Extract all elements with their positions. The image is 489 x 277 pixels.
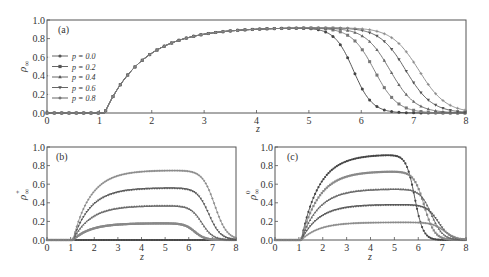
svg-text:∞: ∞ xyxy=(253,189,261,194)
curves-c xyxy=(274,154,467,241)
svg-text:0.6: 0.6 xyxy=(261,179,274,190)
svg-text:3: 3 xyxy=(115,242,120,253)
panel-label-a: (a) xyxy=(58,24,69,36)
svg-text:2: 2 xyxy=(149,115,154,126)
svg-text:1.0: 1.0 xyxy=(33,142,46,153)
y-axis-label-a: ρ ∞ xyxy=(16,61,31,73)
legend: p = 0.0p = 0.2p = 0.4p = 0.6p = 0.8 xyxy=(48,48,100,103)
panel-b: 0123456780.00.20.40.60.81.0 (b) z ρ ∞ + xyxy=(14,142,239,263)
svg-text:0.4: 0.4 xyxy=(33,197,46,208)
svg-text:2: 2 xyxy=(320,242,325,253)
svg-text:0.6: 0.6 xyxy=(33,179,46,190)
svg-text:0: 0 xyxy=(273,242,278,253)
svg-text:8: 8 xyxy=(234,242,239,253)
svg-text:0.0: 0.0 xyxy=(261,235,274,246)
svg-text:1: 1 xyxy=(296,242,301,253)
svg-text:0.8: 0.8 xyxy=(261,160,274,171)
svg-text:p = 0.2: p = 0.2 xyxy=(71,63,95,72)
svg-text:ρ: ρ xyxy=(246,195,258,201)
plot-frame-b xyxy=(47,147,236,240)
svg-text:1: 1 xyxy=(68,242,73,253)
svg-text:7: 7 xyxy=(411,115,416,126)
svg-text:0.8: 0.8 xyxy=(33,33,46,44)
svg-text:6: 6 xyxy=(186,242,191,253)
svg-text:0: 0 xyxy=(244,190,252,194)
y-axis-label-b: ρ ∞ + xyxy=(14,189,31,201)
svg-text:8: 8 xyxy=(464,115,469,126)
svg-text:1.0: 1.0 xyxy=(261,142,274,153)
svg-text:2: 2 xyxy=(92,242,97,253)
svg-text:3: 3 xyxy=(202,115,207,126)
svg-text:0.2: 0.2 xyxy=(261,216,274,227)
svg-text:7: 7 xyxy=(210,242,215,253)
svg-text:0.2: 0.2 xyxy=(33,89,46,100)
panel-label-c: (c) xyxy=(287,151,298,163)
figure: 0123456780.00.20.40.60.81.0 (a) z ρ ∞ p … xyxy=(0,0,489,277)
svg-text:7: 7 xyxy=(440,242,445,253)
svg-text:∞: ∞ xyxy=(23,189,31,194)
svg-text:5: 5 xyxy=(392,242,397,253)
x-axis-label-c: z xyxy=(367,251,372,262)
svg-text:+: + xyxy=(14,190,22,194)
svg-text:0.2: 0.2 xyxy=(33,216,46,227)
x-axis-label-a: z xyxy=(255,123,260,134)
svg-text:0: 0 xyxy=(45,115,50,126)
panel-a: 0123456780.00.20.40.60.81.0 (a) z ρ ∞ p … xyxy=(16,15,469,135)
svg-text:8: 8 xyxy=(464,242,469,253)
svg-text:5: 5 xyxy=(163,242,168,253)
panel-label-b: (b) xyxy=(56,151,68,163)
svg-text:0: 0 xyxy=(45,242,50,253)
svg-text:3: 3 xyxy=(344,242,349,253)
svg-text:ρ: ρ xyxy=(16,67,28,73)
svg-text:5: 5 xyxy=(306,115,311,126)
curves-a xyxy=(45,26,466,115)
svg-text:0.0: 0.0 xyxy=(33,235,46,246)
svg-text:∞: ∞ xyxy=(23,61,31,66)
panel-c: 0123456780.00.20.40.60.81.0 (c) z ρ ∞ 0 xyxy=(244,142,469,263)
svg-text:1.0: 1.0 xyxy=(33,15,46,26)
svg-text:0.0: 0.0 xyxy=(33,108,46,119)
curves-b xyxy=(46,169,237,241)
svg-text:p = 0.6: p = 0.6 xyxy=(71,84,95,93)
svg-text:0.4: 0.4 xyxy=(261,197,274,208)
svg-text:0.8: 0.8 xyxy=(33,160,46,171)
svg-text:6: 6 xyxy=(416,242,421,253)
svg-text:6: 6 xyxy=(359,115,364,126)
x-axis-label-b: z xyxy=(139,251,144,262)
svg-text:p = 0.4: p = 0.4 xyxy=(71,73,95,82)
y-axis-label-c: ρ ∞ 0 xyxy=(244,189,261,201)
svg-text:1: 1 xyxy=(97,115,102,126)
svg-text:p = 0.0: p = 0.0 xyxy=(71,52,95,61)
svg-text:p = 0.8: p = 0.8 xyxy=(71,94,95,103)
svg-text:ρ: ρ xyxy=(16,195,28,201)
svg-text:0.6: 0.6 xyxy=(33,52,46,63)
svg-text:0.4: 0.4 xyxy=(33,70,46,81)
